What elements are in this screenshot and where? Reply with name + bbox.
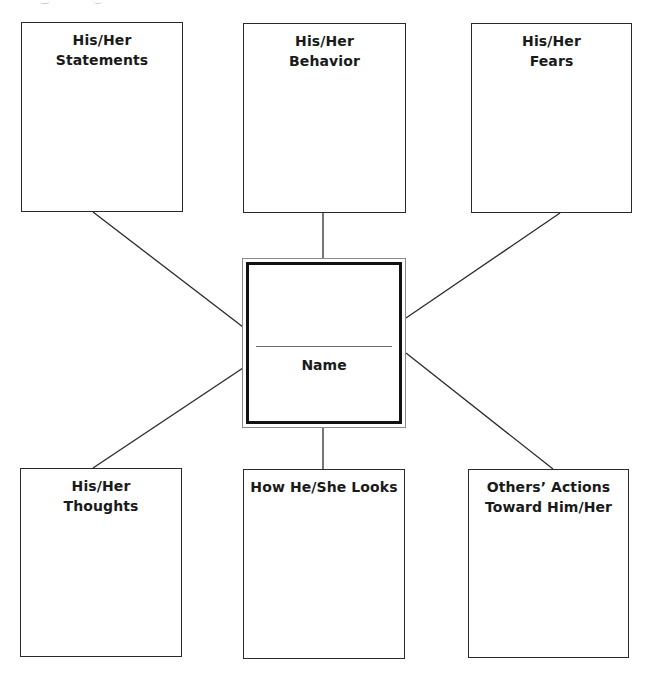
others-actions-box: Others’ Actions Toward Him/Her xyxy=(468,469,629,658)
center-name-box xyxy=(242,258,406,428)
statements-title: His/Her Statements xyxy=(22,30,182,70)
name-label: Name xyxy=(242,355,406,375)
connector-thoughts xyxy=(93,368,243,468)
cropped-heading-fragment xyxy=(94,0,102,4)
title-line: Statements xyxy=(22,50,182,70)
title-line: His/Her xyxy=(472,31,631,51)
title-line: How He/She Looks xyxy=(244,477,404,497)
fears-title: His/Her Fears xyxy=(472,31,631,71)
connector-fears xyxy=(406,213,560,318)
character-map-diagram: His/Her Statements His/Her Behavior His/… xyxy=(0,0,653,678)
behavior-box: His/Her Behavior xyxy=(243,23,406,213)
thoughts-title: His/Her Thoughts xyxy=(21,476,181,516)
title-line: His/Her xyxy=(22,30,182,50)
looks-box: How He/She Looks xyxy=(243,469,405,659)
center-inner-frame xyxy=(246,262,402,424)
connector-others-actions xyxy=(406,353,553,469)
title-line: His/Her xyxy=(244,31,405,51)
others-actions-title: Others’ Actions Toward Him/Her xyxy=(469,477,628,517)
title-line: Toward Him/Her xyxy=(469,497,628,517)
name-write-line xyxy=(256,346,392,347)
fears-box: His/Her Fears xyxy=(471,23,632,213)
title-line: Fears xyxy=(472,51,631,71)
title-line: Others’ Actions xyxy=(469,477,628,497)
cropped-heading-fragment xyxy=(40,0,50,4)
connector-statements xyxy=(93,212,243,327)
looks-title: How He/She Looks xyxy=(244,477,404,497)
title-line: Thoughts xyxy=(21,496,181,516)
thoughts-box: His/Her Thoughts xyxy=(20,468,182,657)
title-line: His/Her xyxy=(21,476,181,496)
title-line: Behavior xyxy=(244,51,405,71)
statements-box: His/Her Statements xyxy=(21,22,183,212)
behavior-title: His/Her Behavior xyxy=(244,31,405,71)
